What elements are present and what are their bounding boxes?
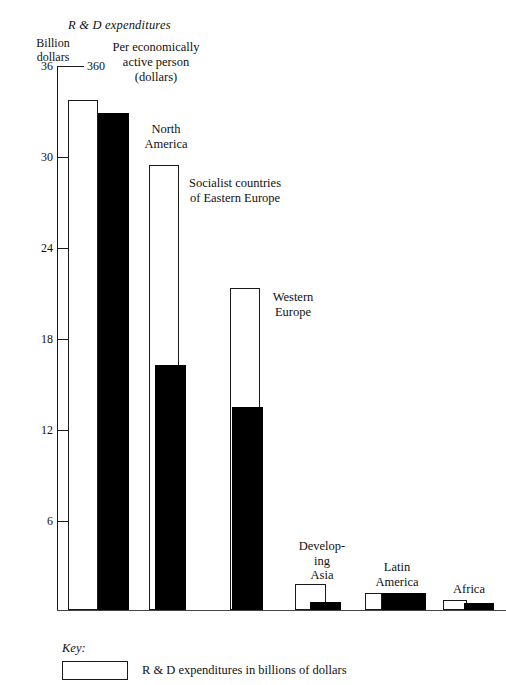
series-label: Latin America (361, 560, 433, 589)
bar-open-north-america (68, 100, 98, 610)
series-label: Develop- ing Asia (291, 539, 353, 583)
bar-solid-north-america (98, 113, 129, 610)
plot-area: North AmericaSocialist countries of East… (0, 0, 506, 685)
series-label: Socialist countries of Eastern Europe (170, 176, 300, 205)
bar-solid-western-europe (232, 407, 263, 610)
bar-solid-socialist-countries-of-eastern-europe (155, 365, 186, 610)
key-title: Key: (62, 641, 86, 656)
bar-solid-africa (464, 603, 494, 610)
key-swatch-open (62, 661, 128, 680)
rd-expenditures-chart: R & D expenditures Billion dollars Per e… (0, 0, 506, 685)
key-entry-label: R & D expenditures in billions of dollar… (142, 663, 347, 678)
bar-open-latin-america (365, 593, 382, 610)
series-label: North America (128, 122, 204, 151)
series-label: Africa (441, 582, 497, 597)
series-label: Western Europe (257, 290, 329, 319)
bar-solid-latin-america (382, 593, 426, 610)
bar-solid-developing-asia (310, 602, 341, 610)
